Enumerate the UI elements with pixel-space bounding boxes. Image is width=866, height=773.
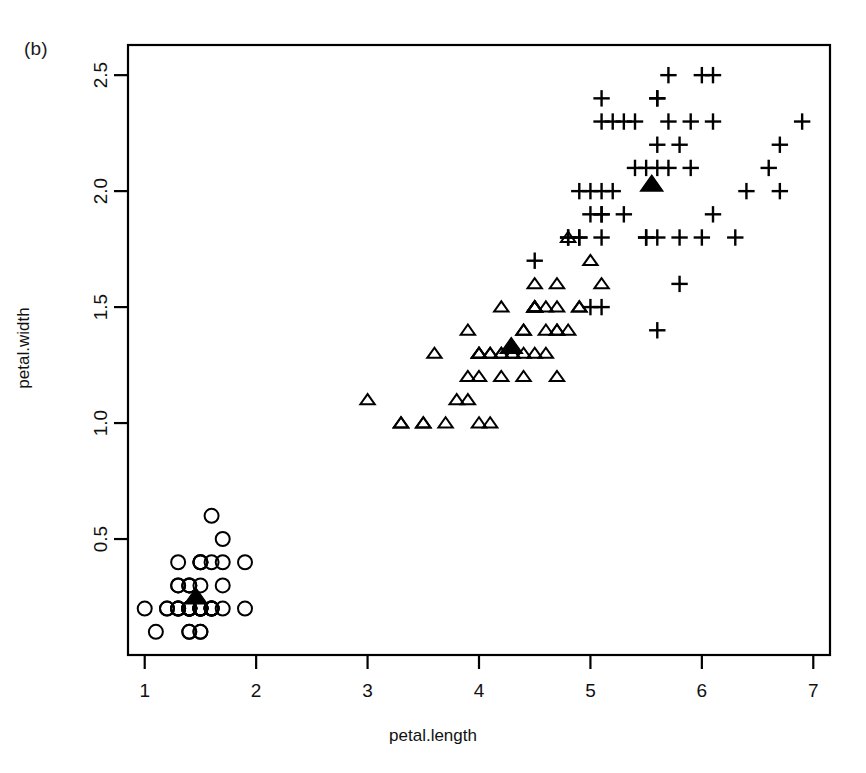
y-tick-label: 0.5 — [90, 526, 111, 552]
data-point-triangle — [483, 417, 497, 427]
x-tick-label: 5 — [585, 680, 596, 701]
data-point-triangle — [394, 417, 408, 427]
data-point-triangle — [494, 371, 508, 381]
data-point-triangle — [550, 278, 564, 288]
x-tick-label: 4 — [474, 680, 485, 701]
y-axis-title: petal.width — [14, 268, 34, 428]
scatter-plot-figure: (b) 1234567 0.51.01.52.02.5 petal.length… — [0, 0, 866, 773]
data-point-triangle — [494, 301, 508, 311]
axes-box — [128, 45, 830, 655]
centroid-marker-triangle — [500, 337, 523, 353]
series-versicolor-points — [360, 232, 608, 428]
x-axis-ticks: 1234567 — [139, 655, 818, 701]
x-tick-label: 6 — [697, 680, 708, 701]
data-point-circle — [238, 555, 252, 569]
data-point-triangle — [528, 301, 542, 311]
data-point-triangle — [461, 325, 475, 335]
x-tick-label: 7 — [808, 680, 819, 701]
data-point-triangle — [539, 348, 553, 358]
data-point-triangle — [427, 348, 441, 358]
data-point-triangle — [450, 394, 464, 404]
data-point-triangle — [472, 371, 486, 381]
x-tick-label: 3 — [362, 680, 373, 701]
plot-canvas: 1234567 0.51.01.52.02.5 — [0, 0, 866, 773]
series-setosa-points — [138, 509, 252, 639]
series-virginica-points — [527, 67, 811, 339]
data-point-circle — [171, 555, 185, 569]
data-point-triangle — [360, 394, 374, 404]
x-tick-label: 2 — [251, 680, 262, 701]
data-point-triangle — [438, 417, 452, 427]
data-point-circle — [216, 532, 230, 546]
x-axis-title: petal.length — [0, 726, 866, 746]
data-point-circle — [138, 602, 152, 616]
data-point-triangle — [516, 371, 530, 381]
y-tick-label: 1.5 — [90, 294, 111, 320]
data-point-triangle — [561, 325, 575, 335]
y-tick-label: 2.5 — [90, 62, 111, 88]
plot-frame — [128, 45, 830, 655]
data-point-triangle — [550, 371, 564, 381]
data-point-triangle — [528, 278, 542, 288]
data-point-circle — [149, 625, 163, 639]
data-point-triangle — [583, 255, 597, 265]
data-point-triangle — [594, 278, 608, 288]
data-point-triangle — [416, 417, 430, 427]
data-point-triangle — [550, 301, 564, 311]
centroid-marker-triangle — [640, 175, 663, 191]
series-centroid-markers — [185, 175, 663, 604]
y-tick-label: 1.0 — [90, 410, 111, 436]
data-point-circle — [205, 509, 219, 523]
centroid-marker-triangle — [185, 588, 208, 604]
y-axis-ticks: 0.51.01.52.02.5 — [90, 62, 128, 552]
data-point-triangle — [483, 348, 497, 358]
data-point-circle — [238, 602, 252, 616]
x-tick-label: 1 — [139, 680, 150, 701]
data-point-circle — [216, 578, 230, 592]
y-tick-label: 2.0 — [90, 178, 111, 204]
data-point-triangle — [516, 325, 530, 335]
data-point-triangle — [539, 325, 553, 335]
